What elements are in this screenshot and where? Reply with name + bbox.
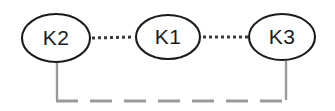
node-k1[interactable]: K1: [136, 15, 200, 59]
node-k3[interactable]: K3: [249, 14, 315, 60]
diagram-svg: K2 K1 K3: [0, 0, 335, 111]
node-k3-label: K3: [269, 25, 295, 48]
bracket-group: [56, 61, 288, 101]
node-k1-label: K1: [155, 25, 181, 48]
node-k2-label: K2: [43, 26, 69, 49]
dotted-link-k2-k1: [92, 37, 134, 38]
diagram-canvas: K2 K1 K3: [0, 0, 335, 111]
node-k2[interactable]: K2: [22, 14, 90, 62]
